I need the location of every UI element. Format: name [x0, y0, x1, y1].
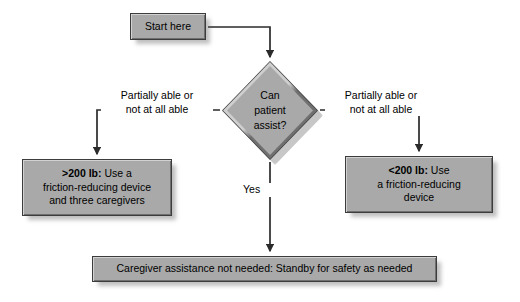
- node-decision: Can patient assist?: [222, 61, 318, 160]
- edge-label-right-line-1: Partially able or: [345, 89, 417, 101]
- right-outcome-line-1-rest: Use: [428, 164, 450, 176]
- flowchart-canvas: Start here Can patient assist? Partially…: [0, 0, 520, 302]
- right-outcome-line-3: device: [404, 191, 434, 203]
- connector-decision-to-left: [97, 110, 220, 154]
- left-outcome-emphasis: >200 lb:: [62, 167, 101, 179]
- node-left-outcome: >200 lb: Use a friction-reducing device …: [22, 159, 172, 216]
- left-outcome-line-1-rest: Use a: [102, 167, 132, 179]
- left-outcome-line-3: and three caregivers: [49, 194, 145, 206]
- node-right-outcome: <200 lb: Use a friction-reducing device: [345, 156, 493, 213]
- edge-label-left-line-2: not at all able: [126, 103, 188, 115]
- node-start: Start here: [130, 13, 206, 40]
- edge-label-left-line-1: Partially able or: [121, 89, 193, 101]
- node-right-outcome-label: <200 lb: Use a friction-reducing device: [371, 164, 466, 206]
- node-start-label: Start here: [139, 20, 197, 34]
- edge-label-center-branch: Yes: [243, 183, 271, 197]
- node-bottom-outcome-label: Caregiver assistance not needed: Standby…: [111, 262, 419, 276]
- node-bottom-outcome: Caregiver assistance not needed: Standby…: [92, 256, 437, 282]
- decision-line-3: assist?: [254, 119, 287, 131]
- decision-line-1: Can: [260, 89, 279, 101]
- edge-label-left-branch: Partially able or not at all able: [101, 89, 213, 116]
- decision-line-2: patient: [254, 104, 286, 116]
- right-outcome-emphasis: <200 lb:: [389, 164, 428, 176]
- connector-start-to-decision: [208, 27, 270, 57]
- right-outcome-line-2: a friction-reducing: [377, 178, 460, 190]
- edge-label-right-line-2: not at all able: [350, 103, 412, 115]
- node-decision-label: Can patient assist?: [222, 61, 318, 160]
- edge-label-right-branch: Partially able or not at all able: [325, 89, 437, 116]
- left-outcome-line-2: friction-reducing device: [43, 181, 151, 193]
- node-left-outcome-label: >200 lb: Use a friction-reducing device …: [37, 167, 157, 209]
